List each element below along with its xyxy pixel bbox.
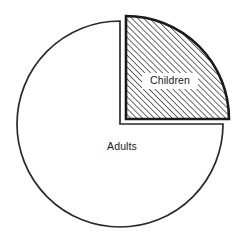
- pie-slice-children-group[interactable]: [126, 16, 229, 119]
- pie-slice-label-children: Children: [150, 74, 190, 86]
- pie-slice-label-adults: Adults: [107, 140, 137, 152]
- pie-slice-children[interactable]: [126, 16, 229, 119]
- pie-chart-figure: Children Adults: [0, 0, 247, 247]
- pie-chart-svg: Children Adults: [0, 0, 247, 247]
